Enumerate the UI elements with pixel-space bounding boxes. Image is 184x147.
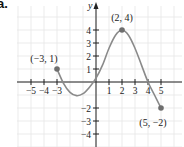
y-tick-label: 3 bbox=[86, 39, 91, 49]
x-tick-label: −4 bbox=[39, 86, 49, 96]
x-tick-label: −3 bbox=[52, 86, 62, 96]
point-label: (−3, 1) bbox=[30, 53, 57, 65]
y-tick-label: 4 bbox=[86, 26, 91, 36]
y-tick-label: −3 bbox=[81, 117, 91, 127]
point-label: (2, 4) bbox=[111, 12, 133, 24]
endpoint-marker bbox=[119, 27, 125, 33]
endpoint-marker bbox=[158, 105, 164, 111]
y-axis-label: y bbox=[87, 0, 93, 11]
point-label: (5, −2) bbox=[139, 117, 166, 129]
y-tick-label: −2 bbox=[81, 104, 91, 114]
x-tick-label: 2 bbox=[120, 86, 125, 96]
y-tick-label: 1 bbox=[86, 65, 91, 75]
x-tick-label: −5 bbox=[26, 86, 36, 96]
endpoint-marker bbox=[54, 66, 60, 72]
x-tick-label: 5 bbox=[159, 86, 164, 96]
x-tick-label: 1 bbox=[107, 86, 112, 96]
function-graph: y −5−4−3123454321−2−3−4 (−3, 1)(2, 4)(5,… bbox=[0, 0, 184, 147]
y-axis-arrow-icon bbox=[94, 2, 99, 9]
y-tick-label: 2 bbox=[86, 52, 91, 62]
x-tick-label: 3 bbox=[133, 86, 138, 96]
y-tick-label: −4 bbox=[81, 130, 91, 140]
